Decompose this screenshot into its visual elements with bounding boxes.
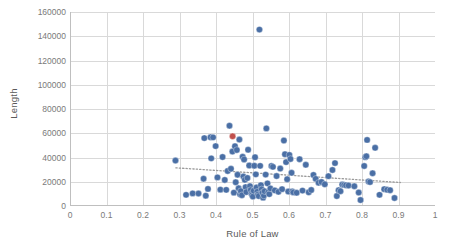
data-point xyxy=(270,164,276,170)
y-tick-label: 40000 xyxy=(22,153,66,163)
data-point xyxy=(287,156,293,162)
data-point xyxy=(273,173,279,179)
x-axis-title-label: Rule of Law xyxy=(226,228,278,239)
y-tick-label: 120000 xyxy=(22,56,66,66)
data-point xyxy=(205,186,211,192)
data-point xyxy=(252,154,258,160)
data-point xyxy=(308,187,314,193)
data-point xyxy=(387,187,393,193)
data-point xyxy=(219,154,225,160)
data-point xyxy=(236,136,242,142)
data-point xyxy=(303,162,309,168)
data-point xyxy=(201,135,207,141)
data-point xyxy=(222,177,228,183)
y-tick-label: 140000 xyxy=(22,31,66,41)
data-point xyxy=(391,195,397,201)
data-point xyxy=(210,134,216,140)
x-tick-label: 0.1 xyxy=(101,210,113,220)
y-tick-label: 160000 xyxy=(22,7,66,17)
y-axis-title-label: Length xyxy=(8,88,19,118)
x-tick-label: 0.4 xyxy=(210,210,222,220)
scatter-chart: Length 020000400006000080000100000120000… xyxy=(0,0,455,250)
data-point xyxy=(189,190,195,196)
data-point xyxy=(367,179,373,185)
data-point xyxy=(257,163,263,169)
data-point xyxy=(203,192,209,198)
data-point xyxy=(245,147,251,153)
data-point xyxy=(372,145,378,151)
data-point xyxy=(325,173,331,179)
data-point xyxy=(228,166,234,172)
data-point xyxy=(234,147,240,153)
data-point xyxy=(226,123,232,129)
x-axis-title: Rule of Law xyxy=(70,228,435,239)
data-point xyxy=(277,165,283,171)
data-point xyxy=(251,163,257,169)
data-point xyxy=(253,171,259,177)
x-tick-label: 0 xyxy=(68,210,73,220)
data-point xyxy=(293,190,299,196)
y-tick-label: 20000 xyxy=(22,177,66,187)
x-tick-label: 0.8 xyxy=(356,210,368,220)
data-point xyxy=(263,125,269,131)
data-point xyxy=(356,189,362,195)
data-point xyxy=(288,170,294,176)
x-tick-label: 0.3 xyxy=(174,210,186,220)
x-tick-label: 0.9 xyxy=(393,210,405,220)
x-tick-label: 1 xyxy=(433,210,438,220)
x-axis-tick-labels: 00.10.20.30.40.50.60.70.80.91 xyxy=(0,210,455,226)
data-point-markers xyxy=(172,26,397,203)
data-point xyxy=(172,157,178,163)
data-point xyxy=(337,188,343,194)
x-tick-label: 0.5 xyxy=(247,210,259,220)
data-point xyxy=(363,153,369,159)
data-point xyxy=(244,175,250,181)
data-point xyxy=(281,137,287,143)
data-point xyxy=(296,156,302,162)
data-point xyxy=(299,187,305,193)
data-point xyxy=(183,192,189,198)
data-point xyxy=(361,163,367,169)
data-point xyxy=(279,186,285,192)
data-point xyxy=(332,160,338,166)
y-tick-label: 80000 xyxy=(22,104,66,114)
data-point xyxy=(345,182,351,188)
data-point xyxy=(329,167,335,173)
x-tick-label: 0.6 xyxy=(283,210,295,220)
y-tick-label: 60000 xyxy=(22,128,66,138)
data-point xyxy=(256,26,262,32)
data-point xyxy=(223,187,229,193)
plot-area xyxy=(70,12,435,206)
data-point xyxy=(262,171,268,177)
data-point xyxy=(284,176,290,182)
data-point xyxy=(229,133,235,139)
y-tick-label: 100000 xyxy=(22,80,66,90)
data-point xyxy=(376,192,382,198)
data-point xyxy=(266,191,272,197)
data-point xyxy=(208,155,214,161)
data-point xyxy=(195,190,201,196)
data-point xyxy=(241,156,247,162)
data-point xyxy=(234,172,240,178)
data-point xyxy=(212,143,218,149)
data-point xyxy=(214,174,220,180)
data-point xyxy=(200,176,206,182)
data-point xyxy=(233,179,239,185)
x-tick-label: 0.7 xyxy=(320,210,332,220)
data-point xyxy=(364,137,370,143)
data-point xyxy=(322,181,328,187)
x-tick-label: 0.2 xyxy=(137,210,149,220)
data-point xyxy=(351,183,357,189)
plot-canvas xyxy=(70,12,435,206)
data-point xyxy=(217,186,223,192)
data-point xyxy=(369,170,375,176)
data-point xyxy=(357,197,363,203)
